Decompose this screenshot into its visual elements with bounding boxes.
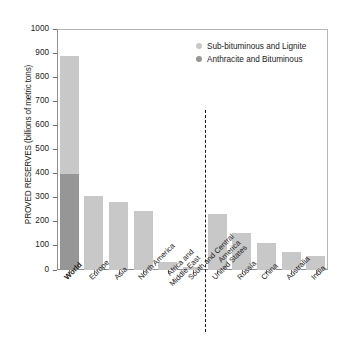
bar-segment (84, 196, 103, 270)
y-axis-tick-label: 400 (35, 168, 49, 177)
y-axis-tick-mark (53, 77, 57, 78)
y-axis-tick-label: 500 (35, 144, 49, 153)
legend-swatch-icon (196, 43, 202, 49)
y-axis-tick-mark (53, 197, 57, 198)
legend-label: Anthracite and Bituminous (207, 55, 303, 64)
y-axis-tick-mark (53, 125, 57, 126)
y-axis-tick-mark (53, 149, 57, 150)
y-axis-tick-mark (53, 173, 57, 174)
y-axis-tick-mark (53, 101, 57, 102)
bar-segment (109, 202, 128, 270)
y-axis-tick-mark (53, 29, 57, 30)
bar (60, 56, 79, 270)
legend-item: Sub-bituminous and Lignite (196, 40, 306, 52)
y-axis-tick-label: 800 (35, 72, 49, 81)
y-axis-tick-label: 1000 (31, 24, 49, 33)
y-axis-tick-mark (53, 53, 57, 54)
y-axis-tick-label: 600 (35, 120, 49, 129)
y-axis-tick-mark (53, 245, 57, 246)
y-axis-tick-label: 900 (35, 48, 49, 57)
y-axis-tick-label: 0 (44, 265, 49, 274)
bar (84, 196, 103, 270)
y-axis-title: PROVED RESERVES (billions of metric tons… (24, 25, 33, 265)
y-axis-tick-label: 200 (35, 216, 49, 225)
legend-item: Anthracite and Bituminous (196, 53, 306, 65)
y-axis-tick-label: 700 (35, 96, 49, 105)
y-axis-tick-mark (53, 270, 57, 271)
legend-label: Sub-bituminous and Lignite (207, 42, 306, 51)
coal-reserves-bar-chart: PROVED RESERVES (billions of metric tons… (0, 0, 344, 353)
group-divider-line (205, 110, 206, 332)
y-axis-tick-label: 100 (35, 240, 49, 249)
bar (109, 202, 128, 270)
bar-segment (60, 174, 79, 270)
y-axis-tick-mark (53, 221, 57, 222)
legend-swatch-icon (196, 56, 202, 62)
y-axis-tick-label: 300 (35, 192, 49, 201)
legend: Sub-bituminous and Lignite Anthracite an… (196, 40, 306, 66)
bar-segment (60, 56, 79, 175)
